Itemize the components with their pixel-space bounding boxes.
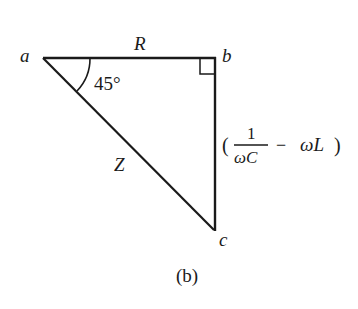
fraction-numerator: 1 [247,124,256,143]
close-paren: ) [334,134,341,157]
vertex-a-label: a [20,45,30,66]
vertex-c-label: c [219,229,228,250]
omega-l-term: ωL [300,134,324,155]
figure-caption: (b) [176,265,198,287]
fraction-denominator: ωC [234,148,258,167]
right-angle-marker [200,58,215,74]
side-bc-label: ( 1 ωC − ωL ) [222,124,341,167]
open-paren: ( [222,134,229,157]
minus-sign: − [276,135,286,155]
vertex-b-label: b [222,45,232,66]
impedance-triangle-diagram: a b c R Z 45° ( 1 ωC − ωL ) (b) [0,0,358,309]
angle-arc [77,58,90,91]
side-ac [43,58,214,230]
side-z-label: Z [114,154,125,175]
side-r-label: R [133,33,146,54]
angle-label: 45° [94,73,121,94]
